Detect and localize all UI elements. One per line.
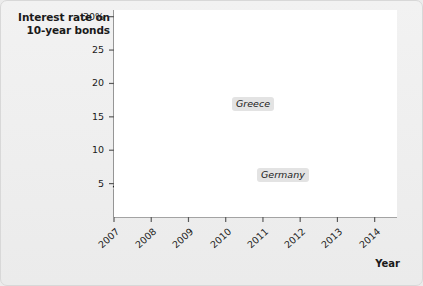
plot-area (114, 10, 397, 217)
x-axis-title: Year (375, 258, 400, 269)
series-label-germany: Germany (257, 168, 309, 182)
x-axis-ticks (114, 217, 375, 222)
chart-card: Interest rate on 10-year bonds 510152025… (0, 0, 423, 286)
y-tick-label: 15 (66, 112, 104, 122)
y-tick-label: 20 (66, 78, 104, 88)
y-tick-label: 25 (66, 45, 104, 55)
y-tick-label: 5 (66, 179, 104, 189)
series-label-greece: Greece (232, 97, 274, 111)
y-tick-label: 30% (66, 12, 104, 22)
y-tick-label: 10 (66, 145, 104, 155)
line-chart-figure: Interest rate on 10-year bonds 510152025… (1, 1, 422, 285)
